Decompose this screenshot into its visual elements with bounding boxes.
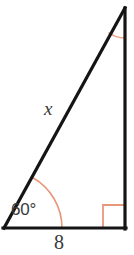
- triangle-side-hypotenuse: [4, 8, 125, 228]
- geometry-figure: 60° x 8: [0, 0, 134, 255]
- base-length-label: 8: [54, 232, 64, 252]
- right-angle-marker: [103, 205, 125, 227]
- hypotenuse-label: x: [44, 99, 52, 118]
- angle-arc-60: [33, 178, 62, 228]
- angle-label: 60°: [11, 201, 36, 218]
